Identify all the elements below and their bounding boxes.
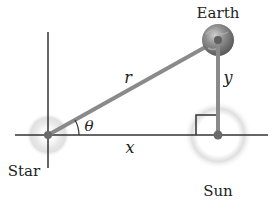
earth-label: Earth xyxy=(197,4,240,22)
star-label: Star xyxy=(8,162,41,180)
sun-dot xyxy=(214,131,223,140)
theta-label: θ xyxy=(84,117,93,135)
theta-arc xyxy=(75,120,79,135)
y-label: y xyxy=(222,68,233,87)
earth-center-dot xyxy=(214,36,222,44)
star-dot xyxy=(44,131,52,139)
x-label: x xyxy=(125,138,134,157)
sun-label: Sun xyxy=(203,182,233,200)
star-earth-sun-diagram: Earth r y θ x Star Sun xyxy=(0,0,280,215)
r-label: r xyxy=(124,68,133,87)
